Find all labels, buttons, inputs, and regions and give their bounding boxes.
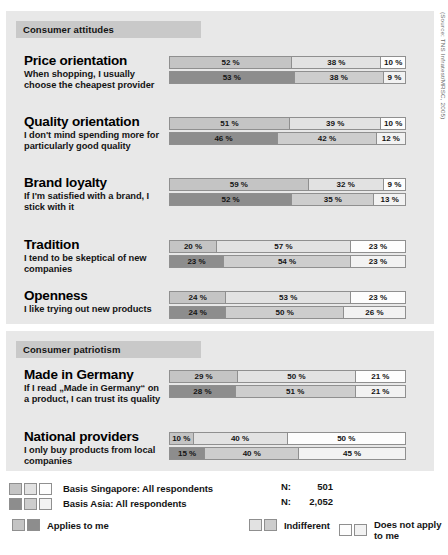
stacked-bar-asia: 23 %54 %23 % [169,255,406,268]
chart-legend: Basis Singapore: All respondentsN:501Bas… [6,481,442,541]
legend-sample-size-label: N: [281,496,297,507]
row-bars: 51 %39 %10 %46 %42 %12 % [169,117,406,147]
legend-sample-size-value: 2,052 [297,496,333,507]
bar-segment-indifferent: 40 % [194,433,288,444]
bar-segment-indifferent: 39 % [290,118,382,129]
bar-segment-applies: 52 % [170,194,292,205]
stacked-bar-asia: 46 %42 %12 % [169,132,406,145]
bar-segment-indifferent: 54 % [224,256,351,267]
row-subtitle: I tend to be skeptical of new companies [24,253,164,276]
row-bars: 20 %57 %23 %23 %54 %23 % [169,240,406,270]
source-note: (Source: TNS Infratest/MRSC, 2005) [440,12,447,119]
bar-segment-not-apply: 9 % [384,179,405,190]
bar-segment-indifferent: 51 % [236,386,356,397]
stacked-bar-singapore: 51 %39 %10 % [169,117,406,130]
row-bars: 59 %32 %9 %52 %35 %13 % [169,178,406,208]
row-title: National providers [24,429,164,444]
bar-segment-applies: 59 % [170,179,309,190]
chart-rows-attitudes: Price orientationWhen shopping, I usuall… [6,11,434,324]
legend-swatch-singapore [339,524,352,536]
bar-segment-applies: 24 % [170,292,226,303]
stacked-bar-singapore: 59 %32 %9 % [169,178,406,191]
bar-segment-not-apply: 50 % [288,433,406,444]
bar-segment-not-apply: 13 % [374,194,405,205]
bar-segment-applies: 46 % [170,133,278,144]
chart-row: Brand loyaltyIf I'm satisfied with a bra… [6,175,434,221]
legend-swatch-indifferent [24,483,37,495]
legend-swatch-indifferent [24,498,37,510]
stacked-bar-singapore: 29 %50 %21 % [169,370,406,383]
row-title: Openness [24,288,164,303]
row-bars: 10 %40 %50 %15 %40 %45 % [169,432,406,462]
bar-segment-indifferent: 53 % [226,292,351,303]
chart-row: TraditionI tend to be skeptical of new c… [6,237,434,283]
legend-sample-size-label: N: [281,481,297,492]
row-label-group: Made in GermanyIf I read „Made in German… [24,367,164,406]
bar-segment-indifferent: 57 % [217,241,351,252]
stacked-bar-asia: 52 %35 %13 % [169,193,406,206]
legend-category-swatches [12,519,42,531]
bar-segment-not-apply: 21 % [356,386,405,397]
bar-segment-applies: 29 % [170,371,238,382]
bar-segment-not-apply: 10 % [381,118,405,129]
legend-swatch-singapore [12,519,25,531]
row-label-group: TraditionI tend to be skeptical of new c… [24,237,164,276]
bar-segment-indifferent: 50 % [226,307,344,318]
row-subtitle: If I read „Made in Germany“ on a product… [24,383,164,406]
bar-segment-indifferent: 38 % [295,72,384,83]
legend-swatch-asia [27,519,40,531]
row-bars: 24 %53 %23 %24 %50 %26 % [169,291,406,321]
legend-category: Does not apply to me [336,519,442,541]
row-subtitle: When shopping, I usually choose the chea… [24,69,164,92]
legend-swatch-group [9,498,54,510]
row-label-group: National providersI only buy products fr… [24,429,164,468]
row-label-group: Quality orientationI don't mind spending… [24,114,164,153]
row-title: Made in Germany [24,367,164,382]
bar-segment-not-apply: 26 % [344,307,405,318]
row-label-group: Price orientationWhen shopping, I usuall… [24,53,164,92]
chart-row: Price orientationWhen shopping, I usuall… [6,53,434,99]
legend-category-label: Applies to me [47,520,109,531]
bar-segment-not-apply: 12 % [377,133,405,144]
legend-basis-label: Basis Asia: All respondents [63,498,187,509]
legend-swatch-asia [264,519,277,531]
legend-category: Applies to me [9,519,109,531]
bar-segment-applies: 52 % [170,57,292,68]
bar-segment-not-apply: 21 % [356,371,405,382]
bar-segment-not-apply: 23 % [351,292,405,303]
section-consumer-attitudes: Consumer attitudes Price orientationWhen… [6,11,434,324]
legend-swatch-asia [354,524,367,536]
stacked-bar-singapore: 52 %38 %10 % [169,56,406,69]
legend-category-label: Indifferent [284,520,330,531]
bar-segment-not-apply: 10 % [381,57,405,68]
legend-swatch-not-apply [39,498,52,510]
bar-segment-indifferent: 42 % [278,133,377,144]
row-title: Tradition [24,237,164,252]
stacked-bar-singapore: 20 %57 %23 % [169,240,406,253]
chart-row: National providersI only buy products fr… [6,429,434,475]
stacked-bar-singapore: 24 %53 %23 % [169,291,406,304]
row-title: Brand loyalty [24,175,164,190]
chart-row: OpennessI like trying out new products24… [6,288,434,334]
chart-row: Made in GermanyIf I read „Made in German… [6,367,434,413]
infographic-page: Consumer attitudes Price orientationWhen… [0,0,448,555]
legend-swatch-group [9,483,54,495]
row-subtitle: I like trying out new products [24,304,164,315]
row-bars: 29 %50 %21 %28 %51 %21 % [169,370,406,400]
stacked-bar-asia: 15 %40 %45 % [169,447,406,460]
row-label-group: Brand loyaltyIf I'm satisfied with a bra… [24,175,164,214]
row-label-group: OpennessI like trying out new products [24,288,164,315]
row-title: Price orientation [24,53,164,68]
bar-segment-applies: 20 % [170,241,217,252]
legend-category-swatches [339,524,369,536]
bar-segment-indifferent: 38 % [292,57,381,68]
bar-segment-applies: 51 % [170,118,290,129]
legend-category-block: Applies to meIndifferentDoes not apply t… [6,519,442,535]
bar-segment-applies: 23 % [170,256,224,267]
chart-row: Quality orientationI don't mind spending… [6,114,434,160]
stacked-bar-singapore: 10 %40 %50 % [169,432,406,445]
legend-sample-size: N:501 [281,481,333,492]
row-bars: 52 %38 %10 %53 %38 %9 % [169,56,406,86]
bar-segment-not-apply: 9 % [384,72,405,83]
bar-segment-applies: 10 % [170,433,194,444]
